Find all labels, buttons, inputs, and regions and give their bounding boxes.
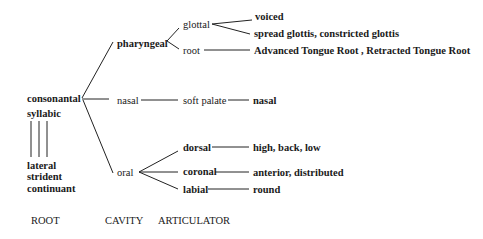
tier-label-articulator: ARTICULATOR	[158, 215, 230, 227]
oral-label: oral	[117, 167, 133, 179]
coronal-label: coronal	[183, 166, 217, 178]
spread-glottis-feature: spread glottis, constricted glottis	[254, 28, 399, 40]
tier-label-cavity: CAVITY	[105, 215, 143, 227]
syllabic-label: syllabic	[27, 108, 61, 120]
feature-geometry-diagram: consonantal syllabic lateral strident co…	[0, 0, 483, 239]
coronal-features: anterior, distributed	[253, 167, 344, 179]
dorsal-features: high, back, low	[253, 142, 321, 154]
consonantal-label: consonantal	[27, 93, 81, 105]
voiced-feature: voiced	[255, 11, 284, 23]
labial-label: labial	[183, 184, 208, 196]
nasal-feature: nasal	[253, 95, 276, 107]
connector-lines	[0, 0, 483, 239]
glottal-label: glottal	[183, 19, 210, 31]
pharyngeal-label: pharyngeal	[117, 38, 168, 50]
tongue-root-feature: Advanced Tongue Root , Retracted Tongue …	[254, 45, 470, 57]
dorsal-label: dorsal	[183, 142, 211, 154]
continuant-label: continuant	[27, 183, 75, 195]
tier-label-root: ROOT	[31, 215, 60, 227]
soft-palate-label: soft palate	[183, 95, 226, 107]
strident-label: strident	[27, 171, 62, 183]
root-articulator-label: root	[183, 45, 200, 57]
nasal-cavity-label: nasal	[117, 95, 139, 107]
labial-features: round	[253, 184, 280, 196]
